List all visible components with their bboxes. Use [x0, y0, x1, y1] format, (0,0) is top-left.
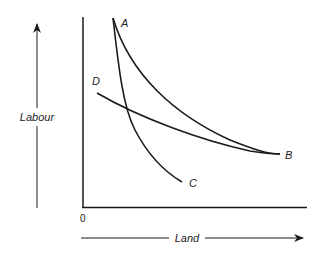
- label-b: B: [285, 149, 292, 161]
- land-axis-label: Land: [175, 232, 200, 244]
- isoquant-diagram: Labour 0 Land A B C D: [0, 0, 321, 257]
- labour-axis-label: Labour: [20, 111, 56, 123]
- label-d: D: [92, 75, 100, 87]
- curve-db: [97, 93, 280, 154]
- curve-ab: [113, 18, 280, 154]
- label-a: A: [120, 17, 128, 29]
- origin-label: 0: [80, 213, 86, 224]
- label-c: C: [189, 177, 197, 189]
